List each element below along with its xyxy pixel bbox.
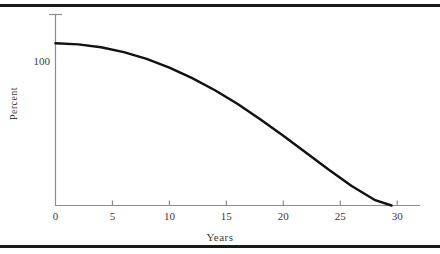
- chart-figure: 051015202530 100 Years Percent: [0, 0, 440, 254]
- y-axis-tick-label-100: 100: [22, 56, 50, 67]
- x-axis-tick-label: 0: [41, 211, 71, 222]
- x-axis-title: Years: [0, 231, 440, 243]
- x-axis-tick-label: 30: [382, 211, 412, 222]
- x-axis-tick-label: 20: [268, 211, 298, 222]
- data-curve-line: [56, 43, 392, 205]
- axis-lines: [49, 14, 420, 206]
- x-axis-tick-label: 15: [211, 211, 241, 222]
- x-axis-tick-label: 25: [325, 211, 355, 222]
- x-axis-tick-label: 5: [97, 211, 127, 222]
- x-axis-tick-label: 10: [154, 211, 184, 222]
- y-axis-title: Percent: [8, 69, 19, 139]
- x-axis-tick-marks: [112, 201, 397, 206]
